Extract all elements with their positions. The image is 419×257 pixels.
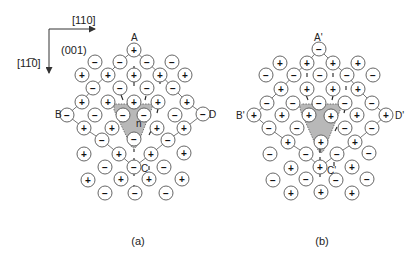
anion-ion: − <box>366 68 380 82</box>
svg-text:+: + <box>116 149 122 160</box>
svg-text:−: − <box>364 174 370 185</box>
anion-ion: − <box>196 107 210 121</box>
svg-text:+: + <box>131 45 137 56</box>
anion-ion: − <box>95 133 109 147</box>
cation-ion: + <box>351 56 365 70</box>
site-label: C' <box>327 165 336 176</box>
cation-ion: + <box>284 186 298 200</box>
svg-text:+: + <box>181 148 187 159</box>
svg-text:+: + <box>304 58 310 69</box>
cation-ion: + <box>345 160 359 174</box>
svg-text:+: + <box>146 174 152 185</box>
svg-text:+: + <box>85 175 91 186</box>
anion-ion: − <box>313 68 327 82</box>
svg-text:−: − <box>144 83 150 94</box>
svg-text:−: − <box>131 162 137 173</box>
svg-text:−: − <box>99 135 105 146</box>
cation-ion: + <box>144 147 158 161</box>
cation-ion: + <box>274 82 288 96</box>
cation-ion: + <box>326 82 340 96</box>
cation-ion: + <box>348 135 362 149</box>
svg-text:+: + <box>285 137 291 148</box>
svg-text:−: − <box>333 175 339 186</box>
svg-text:+: + <box>355 84 361 95</box>
svg-text:−: − <box>316 98 322 109</box>
svg-text:−: − <box>165 135 171 146</box>
anion-ion: − <box>140 55 154 69</box>
svg-text:+: + <box>318 187 324 198</box>
cation-ion: + <box>350 108 364 122</box>
site-label: A <box>131 32 138 43</box>
anion-ion: − <box>168 108 182 122</box>
crystal-axes: [110] [11̅0] (001) <box>17 14 96 73</box>
cation-ion: + <box>175 172 189 186</box>
svg-text:+: + <box>154 123 160 134</box>
svg-text:−: − <box>342 123 348 134</box>
anion-ion: − <box>260 96 274 110</box>
crystal-lattice-figure: [110] [11̅0] (001) +−−−−+++++−−−−+++++−−… <box>0 0 419 257</box>
anion-ion: − <box>113 81 127 95</box>
cation-ion: + <box>127 95 141 109</box>
cation-ion: + <box>273 56 287 70</box>
svg-text:−: − <box>370 70 376 81</box>
svg-text:−: − <box>170 83 176 94</box>
anion-ion: − <box>86 81 100 95</box>
svg-text:−: − <box>294 123 300 134</box>
anion-ion: − <box>360 172 374 186</box>
dashed-boundary-tick <box>335 127 337 131</box>
svg-text:−: − <box>144 57 150 68</box>
svg-text:+: + <box>81 123 87 134</box>
cation-ion: + <box>313 160 327 174</box>
svg-text:+: + <box>279 110 285 121</box>
svg-text:+: + <box>155 97 161 108</box>
svg-text:+: + <box>349 188 355 199</box>
svg-text:−: − <box>366 148 372 159</box>
svg-text:−: − <box>344 70 350 81</box>
svg-text:−: − <box>102 188 108 199</box>
anion-ion: − <box>299 147 313 161</box>
svg-text:+: + <box>179 174 185 185</box>
svg-text:−: − <box>92 57 98 68</box>
cation-ion: + <box>379 108 393 122</box>
svg-text:−: − <box>200 109 206 120</box>
cation-ion: + <box>314 135 328 149</box>
anion-ion: − <box>312 42 326 56</box>
site-label: A' <box>314 32 323 43</box>
svg-text:−: − <box>270 175 276 186</box>
svg-text:+: + <box>277 58 283 69</box>
svg-text:+: + <box>131 70 137 81</box>
anion-ion: − <box>338 96 352 110</box>
cation-ion: + <box>180 95 194 109</box>
cation-ion: + <box>127 43 141 57</box>
svg-text:+: + <box>288 163 294 174</box>
anion-ion: − <box>338 121 352 135</box>
anion-ion: − <box>157 160 171 174</box>
cation-ion: + <box>247 108 261 122</box>
svg-text:−: − <box>264 98 270 109</box>
svg-text:−: − <box>172 110 178 121</box>
svg-text:+: + <box>184 97 190 108</box>
cation-ion: + <box>302 108 316 122</box>
svg-text:−: − <box>266 123 272 134</box>
cation-ion: + <box>75 95 89 109</box>
anion-ion: − <box>98 160 112 174</box>
anion-ion: − <box>262 121 276 135</box>
cation-ion: + <box>153 68 167 82</box>
svg-text:−: − <box>131 134 137 145</box>
svg-text:+: + <box>317 162 323 173</box>
svg-text:−: − <box>132 188 138 199</box>
svg-text:+: + <box>251 110 257 121</box>
svg-text:+: + <box>383 110 389 121</box>
site-label: C <box>141 163 148 174</box>
svg-text:−: − <box>92 110 98 121</box>
panel-b-lattice: −++++−−−−−++++−−−−−++++++−−−−+++−−−−+++−… <box>236 32 404 200</box>
cation-ion: + <box>101 95 115 109</box>
svg-text:+: + <box>330 84 336 95</box>
svg-text:+: + <box>131 97 137 108</box>
svg-text:−: − <box>369 123 375 134</box>
svg-text:+: + <box>304 84 310 95</box>
svg-text:+: + <box>306 110 312 121</box>
svg-text:+: + <box>79 97 85 108</box>
svg-text:+: + <box>148 149 154 160</box>
svg-text:+: + <box>109 123 115 134</box>
